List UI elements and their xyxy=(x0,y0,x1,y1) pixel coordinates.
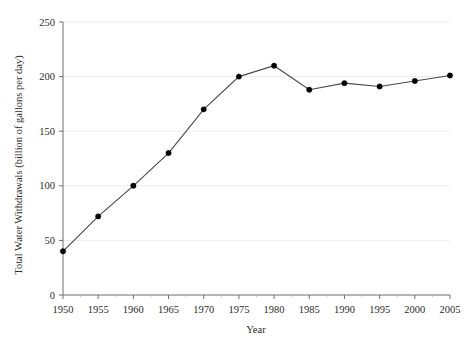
data-point-1960-100 xyxy=(131,183,136,188)
y-tick-label-150: 150 xyxy=(39,126,55,137)
line-chart: 050100150200250 195019551960196519701975… xyxy=(0,0,471,350)
data-point-1980-210 xyxy=(271,63,276,68)
chart-container: 050100150200250 195019551960196519701975… xyxy=(0,0,471,350)
y-tick-label-0: 0 xyxy=(50,290,55,301)
x-tick-label-1975: 1975 xyxy=(228,304,249,315)
x-tick-label-1965: 1965 xyxy=(158,304,179,315)
data-point-2000-196 xyxy=(412,78,417,83)
x-tick-label-1960: 1960 xyxy=(123,304,144,315)
y-tick-label-100: 100 xyxy=(39,180,55,191)
data-point-2005-201 xyxy=(447,73,452,78)
data-point-1950-40 xyxy=(60,249,65,254)
x-tick-label-1970: 1970 xyxy=(193,304,214,315)
y-tick-label-50: 50 xyxy=(45,235,56,246)
x-tick-label-1955: 1955 xyxy=(88,304,109,315)
x-tick-label-1995: 1995 xyxy=(369,304,390,315)
data-point-1975-200 xyxy=(236,74,241,79)
x-axis-title: Year xyxy=(246,324,266,335)
y-tick-label-250: 250 xyxy=(39,17,55,28)
data-point-1965-130 xyxy=(166,150,171,155)
data-point-1990-194 xyxy=(342,80,347,85)
y-axis-title: Total Water Withdrawals (billion of gall… xyxy=(13,55,25,275)
x-tick-label-1980: 1980 xyxy=(264,304,285,315)
x-tick-label-2005: 2005 xyxy=(440,304,461,315)
data-point-1985-188 xyxy=(307,87,312,92)
chart-background xyxy=(0,0,471,350)
data-point-1995-191 xyxy=(377,84,382,89)
x-tick-label-1950: 1950 xyxy=(53,304,74,315)
x-tick-label-1990: 1990 xyxy=(334,304,355,315)
y-tick-label-200: 200 xyxy=(39,71,55,82)
data-point-1970-170 xyxy=(201,107,206,112)
data-point-1955-72 xyxy=(95,214,100,219)
x-tick-label-1985: 1985 xyxy=(299,304,320,315)
x-tick-label-2000: 2000 xyxy=(404,304,425,315)
